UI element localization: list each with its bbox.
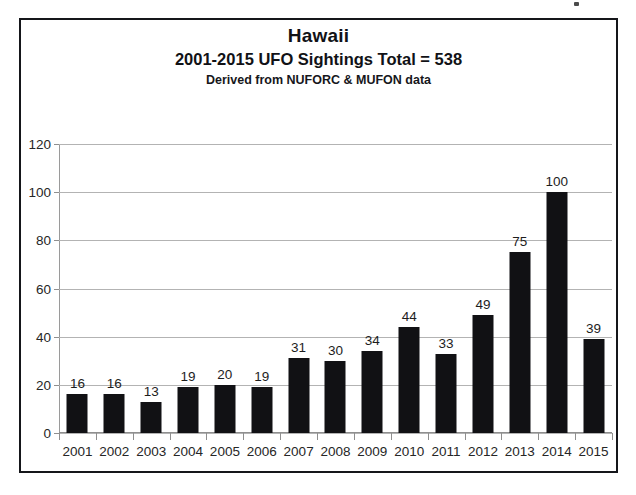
x-tick-mark-4 <box>206 433 207 440</box>
bar-2015[interactable] <box>583 339 604 433</box>
bar-2010[interactable] <box>399 327 420 433</box>
bar-2003[interactable] <box>141 402 162 433</box>
x-tick-mark-12 <box>501 433 502 440</box>
y-tick-label-60: 60 <box>36 281 51 296</box>
bar-slot-2015: 39 <box>575 144 612 433</box>
bar-2011[interactable] <box>436 354 457 433</box>
x-tick-label-2014: 2014 <box>542 444 572 459</box>
bar-slot-2007: 31 <box>280 144 317 433</box>
x-tick-mark-9 <box>391 433 392 440</box>
x-tick-label-2011: 2011 <box>432 444 461 459</box>
x-tick-label-2007: 2007 <box>284 444 314 459</box>
x-tick-label-2004: 2004 <box>173 444 203 459</box>
scan-artifact-speck <box>574 2 579 6</box>
x-tick-mark-2 <box>133 433 134 440</box>
x-tick-label-2010: 2010 <box>394 444 424 459</box>
bar-2009[interactable] <box>362 351 383 433</box>
bar-slot-2002: 16 <box>96 144 133 433</box>
y-tick-label-80: 80 <box>36 233 51 248</box>
bar-value-2010: 44 <box>402 309 417 324</box>
bar-slot-2008: 30 <box>317 144 354 433</box>
x-tick-label-2008: 2008 <box>320 444 350 459</box>
bar-2002[interactable] <box>104 394 125 433</box>
x-tick-label-2001: 2001 <box>62 444 92 459</box>
x-tick-label-2005: 2005 <box>210 444 240 459</box>
bar-slot-2011: 33 <box>428 144 465 433</box>
bar-slot-2014: 100 <box>538 144 575 433</box>
bar-value-2006: 19 <box>254 369 269 384</box>
x-axis-ticks: 2001200220032004200520062007200820092010… <box>59 433 612 441</box>
x-tick-mark-8 <box>354 433 355 440</box>
bar-value-2008: 30 <box>328 343 343 358</box>
x-tick-label-2012: 2012 <box>468 444 498 459</box>
y-tick-label-0: 0 <box>43 426 51 441</box>
plot-area: 020406080100120 161613192019313034443349… <box>59 144 612 433</box>
x-tick-label-2002: 2002 <box>99 444 129 459</box>
x-tick-mark-6 <box>280 433 281 440</box>
x-tick-mark-1 <box>96 433 97 440</box>
bar-slot-2003: 13 <box>133 144 170 433</box>
x-tick-mark-0 <box>59 433 60 440</box>
bar-slot-2009: 34 <box>354 144 391 433</box>
x-tick-label-2013: 2013 <box>505 444 535 459</box>
y-tick-label-120: 120 <box>28 137 51 152</box>
bar-slot-2006: 19 <box>243 144 280 433</box>
x-tick-label-2009: 2009 <box>357 444 387 459</box>
bar-2012[interactable] <box>472 315 493 433</box>
x-tick-mark-15 <box>612 433 613 440</box>
bar-slot-2001: 16 <box>59 144 96 433</box>
bar-value-2014: 100 <box>545 174 568 189</box>
bar-slot-2013: 75 <box>501 144 538 433</box>
chart-frame: Hawaii 2001-2015 UFO Sightings Total = 5… <box>19 18 618 473</box>
x-tick-mark-13 <box>538 433 539 440</box>
y-tick-label-20: 20 <box>36 377 51 392</box>
bar-2001[interactable] <box>67 394 88 433</box>
bar-value-2009: 34 <box>365 333 380 348</box>
bar-value-2013: 75 <box>512 234 527 249</box>
bar-value-2015: 39 <box>586 321 601 336</box>
bar-2013[interactable] <box>509 252 530 433</box>
x-tick-mark-11 <box>465 433 466 440</box>
y-tick-label-100: 100 <box>28 185 51 200</box>
plot-wrapper: 020406080100120 161613192019313034443349… <box>21 20 616 471</box>
x-tick-mark-3 <box>170 433 171 440</box>
bar-value-2001: 16 <box>70 376 85 391</box>
x-tick-mark-10 <box>428 433 429 440</box>
x-tick-mark-14 <box>575 433 576 440</box>
bar-value-2003: 13 <box>144 384 159 399</box>
bar-2014[interactable] <box>546 192 567 433</box>
x-tick-label-2003: 2003 <box>136 444 166 459</box>
bar-slot-2005: 20 <box>206 144 243 433</box>
bar-value-2011: 33 <box>439 336 454 351</box>
bar-2006[interactable] <box>251 387 272 433</box>
y-tick-label-40: 40 <box>36 329 51 344</box>
bar-value-2004: 19 <box>181 369 196 384</box>
bar-2004[interactable] <box>178 387 199 433</box>
bar-value-2007: 31 <box>291 340 306 355</box>
bar-slot-2010: 44 <box>391 144 428 433</box>
bar-value-2012: 49 <box>475 297 490 312</box>
x-tick-label-2006: 2006 <box>247 444 277 459</box>
x-tick-mark-5 <box>243 433 244 440</box>
bar-2007[interactable] <box>288 358 309 433</box>
x-tick-mark-7 <box>317 433 318 440</box>
bar-2005[interactable] <box>214 385 235 433</box>
bar-slot-2004: 19 <box>170 144 207 433</box>
bar-slot-2012: 49 <box>465 144 502 433</box>
bar-2008[interactable] <box>325 361 346 433</box>
bar-value-2002: 16 <box>107 376 122 391</box>
bar-series: 1616131920193130344433497510039 <box>59 144 612 433</box>
x-tick-label-2015: 2015 <box>579 444 609 459</box>
bar-value-2005: 20 <box>217 367 232 382</box>
